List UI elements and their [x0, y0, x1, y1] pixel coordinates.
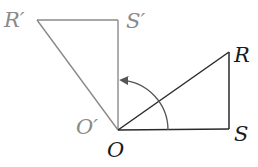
original-triangle	[118, 52, 229, 130]
segment-o-s	[118, 129, 229, 130]
label-o: O	[107, 138, 124, 162]
label-o-prime: O′	[76, 115, 98, 139]
label-r-prime: R′	[3, 8, 25, 32]
segment-r-o	[118, 52, 229, 130]
label-s-prime: S′	[126, 9, 145, 33]
segment-o-prime-r-prime	[37, 20, 118, 130]
label-r: R	[233, 43, 250, 67]
rotation-diagram: R′ S′ O′ O R S	[0, 0, 258, 167]
label-s: S	[234, 122, 248, 146]
image-triangle	[37, 20, 118, 130]
